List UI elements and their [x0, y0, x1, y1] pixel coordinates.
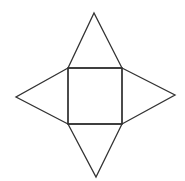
pyramid-net-diagram	[0, 0, 185, 181]
left-triangle-face	[16, 68, 68, 124]
base-square	[68, 68, 122, 124]
bottom-triangle-face	[68, 124, 122, 177]
top-triangle-face	[68, 13, 122, 68]
right-triangle-face	[122, 68, 175, 124]
